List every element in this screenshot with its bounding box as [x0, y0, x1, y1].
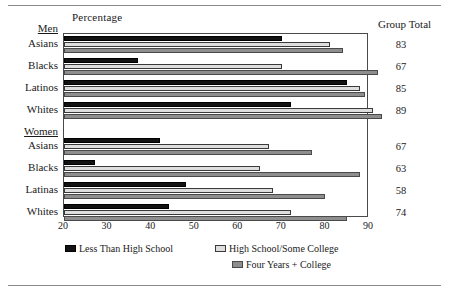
bar-row — [64, 160, 369, 178]
legend-swatch-icon — [232, 261, 243, 268]
category-label-men-asians: Asians — [0, 37, 58, 49]
bar-high-school-some-college — [64, 166, 260, 171]
group-total-value: 85 — [386, 83, 416, 94]
bar-high-school-some-college — [64, 42, 330, 47]
bar-less-than-high-school — [64, 58, 138, 63]
bar-less-than-high-school — [64, 182, 186, 187]
group-total-header: Group Total — [378, 18, 431, 30]
top-divider-rule — [8, 5, 441, 6]
bar-less-than-high-school — [64, 36, 282, 41]
group-total-value: 63 — [386, 163, 416, 174]
bar-high-school-some-college — [64, 188, 273, 193]
legend-item: Less Than High School — [65, 243, 173, 254]
bar-less-than-high-school — [64, 160, 95, 165]
legend-swatch-icon — [65, 245, 76, 252]
x-tick-80: 80 — [319, 220, 329, 231]
x-tick-90: 90 — [363, 220, 373, 231]
category-label-women-blacks: Blacks — [0, 161, 58, 173]
bar-row — [64, 102, 369, 120]
bar-four-years-college — [64, 114, 382, 119]
bar-high-school-some-college — [64, 64, 282, 69]
bar-high-school-some-college — [64, 144, 269, 149]
bar-high-school-some-college — [64, 108, 373, 113]
category-label-men-whites: Whites — [0, 103, 58, 115]
legend-item: High School/Some College — [215, 243, 338, 254]
bar-row — [64, 138, 369, 156]
x-tick-30: 30 — [102, 220, 112, 231]
percentage-header: Percentage — [72, 11, 122, 23]
legend-row-secondary: Four Years + College — [63, 259, 434, 270]
group-total-value: 58 — [386, 185, 416, 196]
legend-label: High School/Some College — [229, 243, 338, 254]
x-tick-60: 60 — [232, 220, 242, 231]
bar-less-than-high-school — [64, 204, 169, 209]
bar-less-than-high-school — [64, 102, 291, 107]
x-tick-70: 70 — [276, 220, 286, 231]
bar-four-years-college — [64, 92, 365, 97]
x-tick-40: 40 — [145, 220, 155, 231]
category-label-women-asians: Asians — [0, 139, 58, 151]
bar-row — [64, 58, 369, 76]
legend-item: Four Years + College — [232, 259, 331, 270]
category-label-women-latinas: Latinas — [0, 183, 58, 195]
group-heading-men: Men — [0, 22, 58, 34]
bar-four-years-college — [64, 150, 312, 155]
bar-four-years-college — [64, 172, 360, 177]
bar-less-than-high-school — [64, 80, 347, 85]
bar-row — [64, 182, 369, 200]
legend-label: Less Than High School — [79, 243, 173, 254]
group-total-value: 89 — [386, 105, 416, 116]
group-total-value: 83 — [386, 39, 416, 50]
bar-four-years-college — [64, 70, 378, 75]
group-heading-women: Women — [0, 125, 58, 137]
category-label-men-latinos: Latinos — [0, 81, 58, 93]
group-total-value: 74 — [386, 207, 416, 218]
bar-less-than-high-school — [64, 138, 160, 143]
plot-area — [63, 33, 368, 217]
x-tick-20: 20 — [58, 220, 68, 231]
bar-four-years-college — [64, 194, 325, 199]
figure: Percentage Group Total AsiansBlacksLatin… — [0, 0, 449, 293]
category-label-men-blacks: Blacks — [0, 59, 58, 71]
bar-row — [64, 36, 369, 54]
bottom-divider-rule — [8, 285, 441, 286]
x-tick-50: 50 — [189, 220, 199, 231]
bar-high-school-some-college — [64, 86, 360, 91]
group-total-value: 67 — [386, 61, 416, 72]
bar-high-school-some-college — [64, 210, 291, 215]
bar-four-years-college — [64, 48, 343, 53]
bar-row — [64, 80, 369, 98]
legend-label: Four Years + College — [246, 259, 331, 270]
legend-swatch-icon — [215, 245, 226, 252]
group-total-value: 67 — [386, 141, 416, 152]
category-label-women-whites: Whites — [0, 205, 58, 217]
